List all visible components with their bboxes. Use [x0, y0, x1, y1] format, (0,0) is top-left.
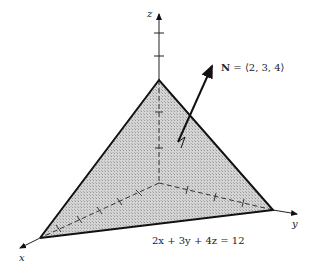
normal-vector-label: N = ⟨2, 3, 4⟩: [221, 62, 284, 73]
x-axis-label: x: [19, 252, 25, 263]
x-axis: [20, 238, 40, 248]
plane-diagram: [0, 0, 316, 270]
y-axis-label: y: [292, 218, 298, 229]
y-axis: [273, 210, 297, 214]
plane-equation: 2x + 3y + 4z = 12: [152, 235, 245, 246]
z-axis-label: z: [147, 8, 152, 19]
